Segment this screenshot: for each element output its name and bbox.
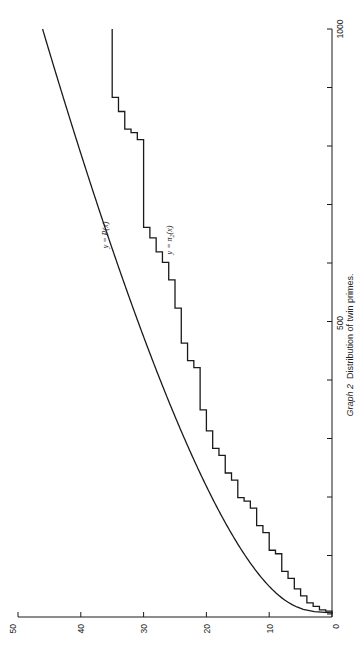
p-curve [43, 29, 332, 613]
x-tick-label-500: 500 [335, 316, 345, 330]
y-tick-label-20: 20 [202, 624, 212, 634]
y-tick-label-30: 30 [139, 624, 149, 634]
twin-primes-chart: 50 40 30 20 10 0 500 1000 y = P(x) y = π… [0, 0, 359, 655]
y-tick-label-50: 50 [8, 624, 18, 634]
y-tick-label-0: 0 [331, 624, 341, 629]
y-tick-label-40: 40 [76, 624, 86, 634]
caption-prefix: Graph 2 [345, 384, 355, 417]
y-tick-label-10: 10 [265, 624, 275, 634]
x-tick-labels: 500 1000 [335, 19, 345, 330]
pi2-step-curve [112, 29, 332, 614]
y-axis-ticks [18, 612, 332, 617]
chart-caption: Graph 2Distribution of twin primes. [345, 273, 355, 416]
caption-text: Distribution of twin primes. [345, 273, 355, 379]
y-tick-labels: 50 40 30 20 10 0 [8, 624, 341, 634]
x-tick-label-1000: 1000 [335, 19, 345, 38]
axes [18, 29, 332, 617]
p-curve-label: y = P(x) [101, 221, 110, 249]
pi2-curve-label: y = π2(x) [165, 225, 175, 255]
x-axis-ticks [327, 29, 332, 614]
